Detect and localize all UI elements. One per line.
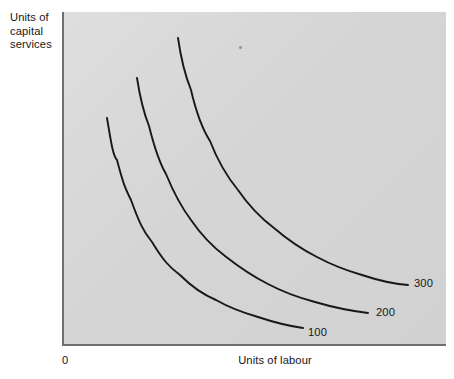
x-axis-line — [62, 344, 446, 346]
x-axis-label: Units of labour — [190, 353, 360, 367]
isoquant-label-100: 100 — [308, 326, 327, 339]
isoquant-figure: Units of capital services Units of labou… — [0, 0, 454, 379]
isoquant-label-200: 200 — [376, 306, 395, 319]
y-axis-line — [62, 12, 64, 346]
plot-area — [64, 12, 446, 345]
isoquant-label-300: 300 — [414, 277, 433, 290]
origin-label: 0 — [62, 353, 68, 367]
y-axis-label: Units of capital services — [10, 11, 60, 52]
scan-artifact-speck — [239, 46, 242, 49]
